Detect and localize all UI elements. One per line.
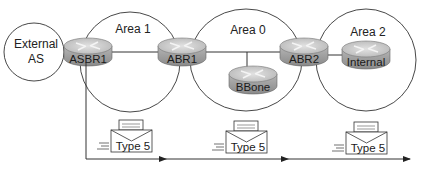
lsa-envelope-1: Type 5 bbox=[97, 120, 152, 152]
area1-label: Area 1 bbox=[115, 22, 151, 36]
area2-label: Area 2 bbox=[350, 25, 386, 39]
router-asbr1: ASBR1 bbox=[64, 38, 112, 66]
lsa-envelope-3: Type 5 bbox=[332, 122, 387, 154]
ospf-lsa-type5-diagram: External AS Area 1 Area 0 Area 2 ASBR1 A… bbox=[0, 0, 424, 171]
lsa-envelope-2: Type 5 bbox=[212, 121, 267, 153]
router-label: Internal bbox=[347, 56, 385, 68]
router-abr1: ABR1 bbox=[158, 38, 206, 66]
router-label: ABR2 bbox=[289, 53, 319, 65]
external-as-label-line2: AS bbox=[28, 52, 44, 66]
router-label: BBone bbox=[236, 81, 271, 93]
area0-label: Area 0 bbox=[230, 23, 266, 37]
lsa-label: Type 5 bbox=[116, 140, 151, 152]
external-as-label: External bbox=[14, 37, 58, 51]
router-bbone: BBone bbox=[229, 66, 277, 94]
router-label: ASBR1 bbox=[69, 53, 107, 65]
router-label: ABR1 bbox=[167, 53, 197, 65]
lsa-label: Type 5 bbox=[351, 142, 386, 154]
router-internal: Internal bbox=[342, 41, 390, 69]
router-abr2: ABR2 bbox=[280, 38, 328, 66]
lsa-label: Type 5 bbox=[231, 141, 266, 153]
